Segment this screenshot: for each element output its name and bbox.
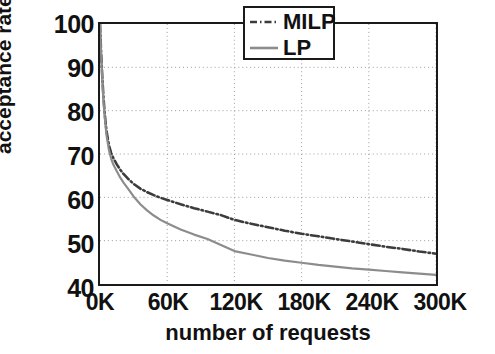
- x-tick-label: 180K: [278, 289, 331, 316]
- series-line-lp: [100, 24, 436, 275]
- y-axis-title: acceptance rate (%): [0, 0, 16, 154]
- x-tick-label: 300K: [414, 289, 467, 316]
- y-tick-label: 70: [67, 142, 94, 171]
- x-tick-label: 60K: [148, 289, 189, 316]
- chart-legend: MILP LP: [243, 6, 335, 60]
- solid-line-swatch: [249, 42, 279, 54]
- plot-area: 0K60K120K180K240K300K405060708090100: [98, 22, 438, 286]
- chart-figure: acceptance rate (%) 0K60K120K180K240K300…: [0, 0, 495, 354]
- y-tick-label: 100: [54, 10, 94, 39]
- legend-item-milp: MILP: [245, 9, 333, 35]
- dash-dot-line-swatch: [249, 16, 279, 28]
- y-tick-label: 50: [67, 230, 94, 259]
- x-axis-title: number of requests: [98, 320, 438, 346]
- legend-label-lp: LP: [283, 37, 311, 59]
- data-curves: [100, 24, 436, 284]
- legend-label-milp: MILP: [283, 11, 336, 33]
- y-tick-label: 90: [67, 54, 94, 83]
- y-tick-label: 60: [67, 186, 94, 215]
- legend-item-lp: LP: [245, 35, 333, 61]
- x-tick-label: 120K: [210, 289, 263, 316]
- x-tick-label: 240K: [346, 289, 399, 316]
- y-tick-label: 40: [67, 274, 94, 303]
- y-tick-label: 80: [67, 98, 94, 127]
